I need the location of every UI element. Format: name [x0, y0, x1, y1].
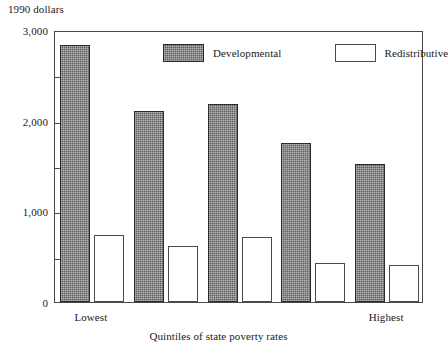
y-axis-labels: 01,0002,0003,000	[0, 31, 48, 303]
bar-redistributive	[389, 265, 419, 302]
legend-label-developmental: Developmental	[213, 47, 282, 59]
bar-developmental	[281, 143, 311, 302]
bar-redistributive	[315, 263, 345, 302]
x-axis-tick-label: Highest	[369, 311, 404, 323]
y-axis-tick-label: 2,000	[23, 116, 48, 128]
plot-area-frame	[54, 31, 423, 303]
bar-redistributive	[242, 237, 272, 302]
x-axis-tick-label: Lowest	[74, 311, 107, 323]
y-axis-tick-label: 3,000	[23, 25, 48, 37]
legend-label-redistributive: Redistributive	[385, 47, 448, 59]
legend-swatch-developmental-icon	[163, 44, 204, 62]
y-axis-tick-label: 1,000	[23, 206, 48, 218]
x-axis-title: Quintiles of state poverty rates	[0, 330, 437, 342]
chart-legend: Developmental Redistributive	[163, 44, 448, 62]
legend-entry-developmental: Developmental	[163, 44, 282, 62]
legend-swatch-redistributive-icon	[335, 44, 376, 62]
legend-entry-redistributive: Redistributive	[335, 44, 448, 62]
bar-redistributive	[168, 246, 198, 302]
y-axis-tick-label: 0	[42, 297, 48, 309]
bar-developmental	[208, 104, 238, 302]
y-axis-unit-caption: 1990 dollars	[8, 3, 64, 15]
bar-redistributive	[94, 235, 124, 302]
bar-developmental	[355, 164, 385, 302]
bar-developmental	[134, 111, 164, 302]
bar-developmental	[60, 45, 90, 302]
